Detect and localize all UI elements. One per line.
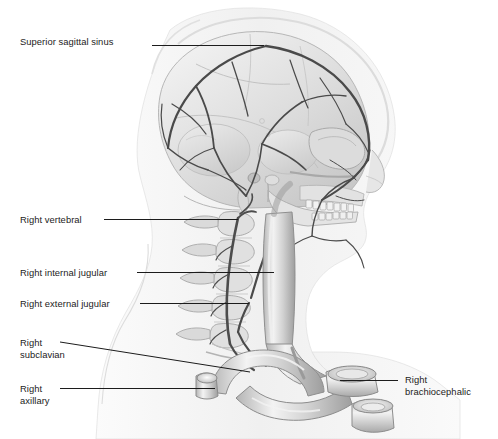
label-right-vertebral: Right vertebral <box>20 214 82 226</box>
label-right-external-jugular: Right external jugular <box>20 298 110 310</box>
label-right-subclavian: Right subclavian <box>20 337 65 360</box>
label-right-axillary: Right axillary <box>20 383 50 406</box>
label-right-brachiocephalic: Right brachiocephalic <box>405 374 471 397</box>
label-superior-sagittal-sinus: Superior sagittal sinus <box>20 36 113 48</box>
label-right-internal-jugular: Right internal jugular <box>20 267 107 279</box>
